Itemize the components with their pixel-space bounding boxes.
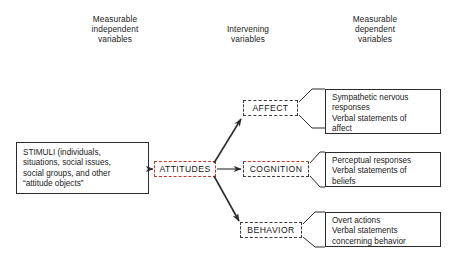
behavior-outcomes-box: Overt actions Verbal statements concerni… xyxy=(325,212,441,247)
cognition-box: COGNITION xyxy=(243,161,309,177)
stimuli-box: STIMULI (individuals, situations, social… xyxy=(16,142,149,194)
stimuli-label: STIMULI (individuals, situations, social… xyxy=(17,143,148,190)
attitudes-box: ATTITUDES xyxy=(154,161,216,177)
behavior-outcomes-label: Overt actions Verbal statements concerni… xyxy=(326,213,440,247)
column-header-independent: Measurable independent variables xyxy=(52,14,178,45)
column-header-intervening: Intervening variables xyxy=(196,24,300,44)
affect-outcomes-label: Sympathetic nervous responses Verbal sta… xyxy=(326,90,440,135)
arrow-attitudes-to-affect xyxy=(214,119,241,163)
diagram-canvas: Measurable independent variables Interve… xyxy=(0,0,454,279)
column-header-dependent: Measurable dependent variables xyxy=(308,14,442,45)
arrow-attitudes-to-behavior xyxy=(214,176,239,221)
cognition-label: COGNITION xyxy=(250,164,303,174)
connector-cognition-to-outcomes xyxy=(310,152,325,187)
connector-affect-to-outcomes xyxy=(299,89,325,128)
affect-box: AFFECT xyxy=(243,100,298,116)
cognition-outcomes-label: Perceptual responses Verbal statements o… xyxy=(326,153,440,187)
cognition-outcomes-box: Perceptual responses Verbal statements o… xyxy=(325,152,441,187)
behavior-label: BEHAVIOR xyxy=(247,225,294,235)
affect-label: AFFECT xyxy=(252,103,288,113)
connector-behavior-to-outcomes xyxy=(303,212,325,247)
affect-outcomes-box: Sympathetic nervous responses Verbal sta… xyxy=(325,89,441,134)
attitudes-label: ATTITUDES xyxy=(159,164,210,174)
behavior-box: BEHAVIOR xyxy=(240,222,302,238)
